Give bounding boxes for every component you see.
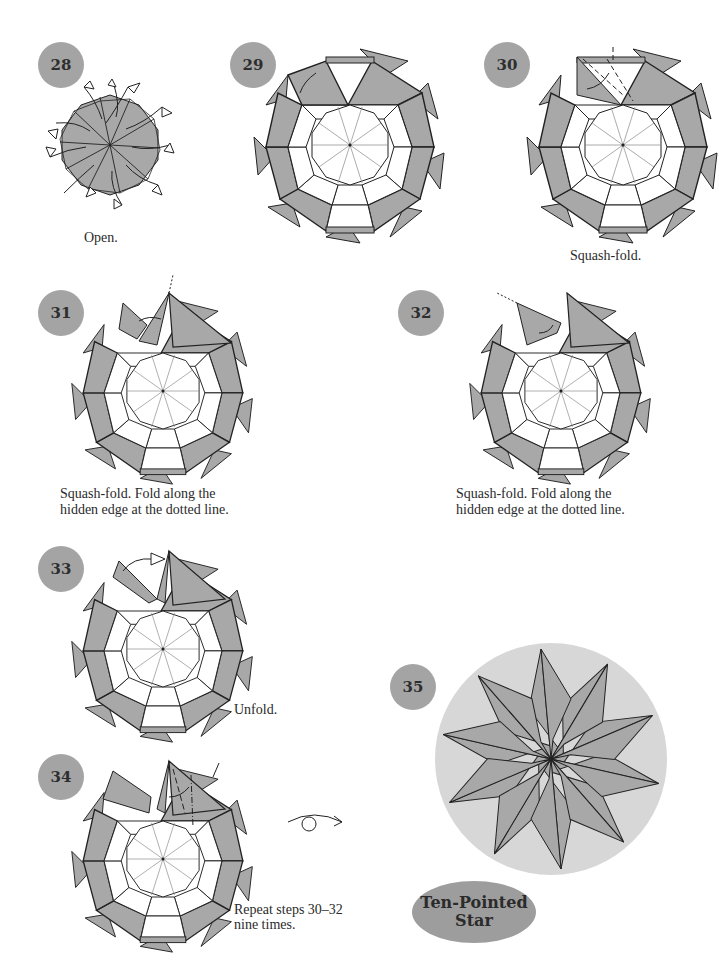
step-badge-35: 35: [390, 664, 436, 710]
step-28-diagram: [45, 80, 175, 210]
step-32-diagram: [456, 290, 666, 480]
step-number: 30: [497, 56, 518, 74]
step-34-caption: Repeat steps 30–32 nine times.: [234, 902, 343, 932]
step-31-caption: Squash-fold. Fold along the hidden edge …: [60, 486, 229, 518]
turn-over-arrow-icon: [286, 808, 346, 838]
step-number: 35: [403, 678, 424, 696]
title-line-2: Star: [420, 912, 527, 930]
title-line-1: Ten-Pointed: [420, 894, 527, 912]
step-28-caption: Open.: [84, 230, 118, 246]
step-30-diagram: [518, 45, 719, 245]
ten-pointed-star-diagram: [432, 640, 670, 878]
step-number: 28: [51, 56, 72, 74]
pinwheel-base: [46, 79, 174, 209]
step-number: 32: [411, 304, 432, 322]
step-31-diagram: [58, 290, 268, 480]
step-29-diagram: [245, 45, 455, 245]
step-32-caption: Squash-fold. Fold along the hidden edge …: [456, 486, 625, 518]
model-title-badge: Ten-Pointed Star: [412, 881, 536, 943]
step-33-caption: Unfold.: [234, 702, 277, 718]
step-30-caption: Squash-fold.: [570, 248, 641, 264]
step-badge-32: 32: [398, 290, 444, 336]
